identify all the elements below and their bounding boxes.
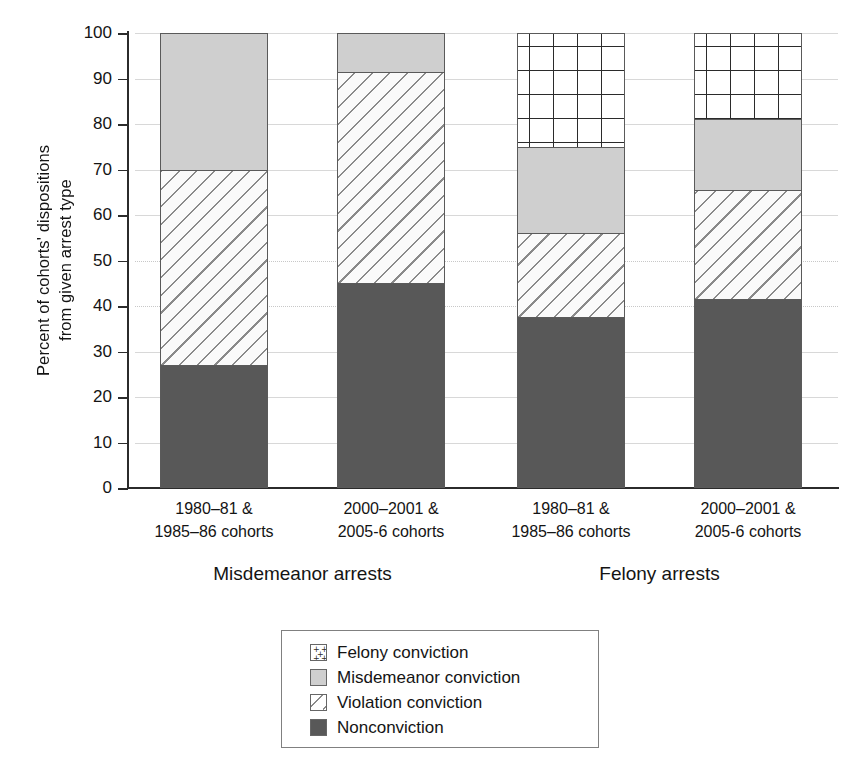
legend-label: Misdemeanor conviction bbox=[337, 668, 520, 688]
legend-swatch-misdemeanor-icon bbox=[310, 669, 327, 686]
x-axis-label-line1: 1980–81 & bbox=[476, 497, 666, 520]
bar-segment-nonconviction[interactable] bbox=[160, 365, 268, 488]
bar-segment-nonconviction[interactable] bbox=[517, 317, 625, 488]
x-axis-label-line2: 1985–86 cohorts bbox=[119, 520, 309, 543]
bar-segment-misdemeanor[interactable] bbox=[337, 33, 445, 72]
y-axis-tick-label: 10 bbox=[72, 433, 112, 453]
bar-segment-misdemeanor[interactable] bbox=[160, 33, 268, 170]
legend-label: Violation conviction bbox=[337, 693, 482, 713]
x-axis-group-label-2: Felony arrests bbox=[495, 563, 825, 585]
bar-segment-felony[interactable] bbox=[694, 33, 802, 119]
bar-segment-violation[interactable] bbox=[694, 190, 802, 299]
x-axis-label-line1: 2000–2001 & bbox=[296, 497, 486, 520]
y-axis-tick-label: 90 bbox=[72, 69, 112, 89]
y-axis-tick-label: 30 bbox=[72, 342, 112, 362]
x-axis-label-line2: 1985–86 cohorts bbox=[476, 520, 666, 543]
y-axis-tick-label: 80 bbox=[72, 114, 112, 134]
legend-item-nonconviction[interactable]: Nonconviction bbox=[310, 715, 598, 740]
bar-segment-misdemeanor[interactable] bbox=[517, 147, 625, 233]
bar-4[interactable] bbox=[694, 33, 802, 488]
y-axis-title: Percent of cohorts' dispositions from gi… bbox=[10, 30, 66, 490]
x-axis-label-line1: 2000–2001 & bbox=[653, 497, 843, 520]
legend-item-misdemeanor[interactable]: Misdemeanor conviction bbox=[310, 665, 598, 690]
legend-item-felony[interactable]: +++++Felony conviction bbox=[310, 640, 598, 665]
plot-area bbox=[135, 33, 838, 488]
bar-segment-violation[interactable] bbox=[160, 170, 268, 366]
y-axis-line bbox=[127, 31, 129, 488]
x-axis-label-line2: 2005-6 cohorts bbox=[296, 520, 486, 543]
legend-label: Felony conviction bbox=[337, 643, 468, 663]
legend-label: Nonconviction bbox=[337, 718, 444, 738]
x-axis-label-2: 2000–2001 &2005-6 cohorts bbox=[296, 497, 486, 543]
y-axis-tick-label: 0 bbox=[72, 478, 112, 498]
bar-segment-misdemeanor[interactable] bbox=[694, 119, 802, 190]
legend-swatch-felony-icon: +++++ bbox=[310, 644, 327, 661]
x-axis-label-line1: 1980–81 & bbox=[119, 497, 309, 520]
bar-segment-nonconviction[interactable] bbox=[337, 283, 445, 488]
y-axis-tick-label: 100 bbox=[72, 23, 112, 43]
legend-swatch-violation-icon bbox=[310, 694, 327, 711]
chart-page: Percent of cohorts' dispositions from gi… bbox=[0, 0, 852, 770]
y-axis-tick-label: 60 bbox=[72, 205, 112, 225]
bar-segment-violation[interactable] bbox=[517, 233, 625, 317]
legend: +++++Felony convictionMisdemeanor convic… bbox=[281, 630, 599, 748]
y-axis-tick-label: 20 bbox=[72, 387, 112, 407]
y-axis-tick-label: 50 bbox=[72, 251, 112, 271]
bar-2[interactable] bbox=[337, 33, 445, 488]
y-axis-tick-labels: 1009080706050403020100 bbox=[60, 33, 112, 488]
x-axis-label-1: 1980–81 &1985–86 cohorts bbox=[119, 497, 309, 543]
x-axis-group-label-1: Misdemeanor arrests bbox=[138, 563, 468, 585]
bar-segment-felony[interactable] bbox=[517, 33, 625, 147]
y-axis-tick-label: 40 bbox=[72, 296, 112, 316]
y-axis-title-line1: Percent of cohorts' dispositions bbox=[32, 30, 54, 490]
y-axis-tick-label: 70 bbox=[72, 160, 112, 180]
x-axis-label-3: 1980–81 &1985–86 cohorts bbox=[476, 497, 666, 543]
x-axis-label-4: 2000–2001 &2005-6 cohorts bbox=[653, 497, 843, 543]
x-axis-label-line2: 2005-6 cohorts bbox=[653, 520, 843, 543]
plus-icon: + bbox=[321, 655, 327, 661]
legend-item-violation[interactable]: Violation conviction bbox=[310, 690, 598, 715]
bar-segment-nonconviction[interactable] bbox=[694, 299, 802, 488]
plus-icon: + bbox=[313, 655, 320, 661]
legend-swatch-nonconviction-icon bbox=[310, 719, 327, 736]
bar-3[interactable] bbox=[517, 33, 625, 488]
x-axis-labels: 1980–81 &1985–86 cohorts2000–2001 &2005-… bbox=[135, 497, 838, 555]
x-axis-group-labels: Misdemeanor arrestsFelony arrests bbox=[135, 563, 838, 597]
bar-segment-violation[interactable] bbox=[337, 72, 445, 284]
bar-1[interactable] bbox=[160, 33, 268, 488]
